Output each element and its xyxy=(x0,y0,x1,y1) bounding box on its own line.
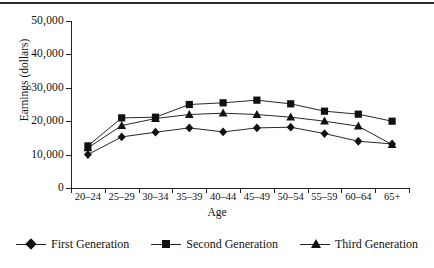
data-point xyxy=(118,132,126,141)
diamond-icon xyxy=(16,238,46,250)
data-point xyxy=(287,100,294,107)
triangle-icon xyxy=(300,238,330,250)
series-diamond xyxy=(84,123,396,159)
data-point xyxy=(253,123,261,132)
data-point xyxy=(219,109,228,117)
data-point xyxy=(321,108,328,115)
square-icon xyxy=(151,238,181,250)
data-point xyxy=(389,118,396,125)
series-square xyxy=(84,97,395,150)
data-point xyxy=(118,114,125,121)
data-point xyxy=(321,129,329,138)
data-point xyxy=(185,123,193,132)
data-point xyxy=(354,137,362,146)
legend-item[interactable]: Third Generation xyxy=(300,237,418,252)
legend-item[interactable]: Second Generation xyxy=(151,237,278,252)
plot-area: 010,00020,00030,00040,00050,000 20–2425–… xyxy=(0,0,434,215)
legend-label: Third Generation xyxy=(335,237,418,252)
data-point xyxy=(355,111,362,118)
legend-label: First Generation xyxy=(51,237,129,252)
data-point xyxy=(219,127,227,136)
legend-item[interactable]: First Generation xyxy=(16,237,129,252)
legend-label: Second Generation xyxy=(186,237,278,252)
data-point xyxy=(220,99,227,106)
data-point xyxy=(84,150,92,159)
chart-figure: 010,00020,00030,00040,00050,000 20–2425–… xyxy=(0,0,434,268)
data-point xyxy=(253,110,262,118)
data-point xyxy=(152,128,160,137)
data-point xyxy=(287,123,295,132)
series-layer xyxy=(0,0,434,215)
data-point xyxy=(253,97,260,104)
chart-legend: First GenerationSecond GenerationThird G… xyxy=(0,233,434,255)
data-point xyxy=(185,110,194,118)
data-point xyxy=(186,101,193,108)
